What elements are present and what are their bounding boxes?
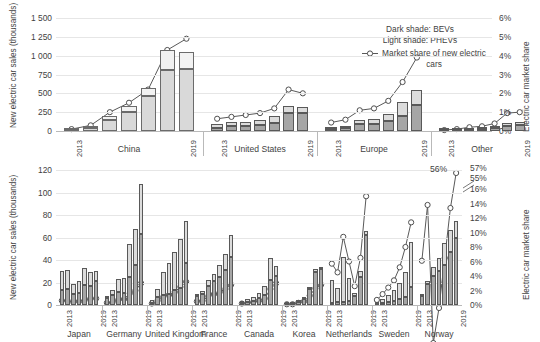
bottom-bar-column [105,170,110,305]
bar-segment-phev [122,278,127,293]
bar-segment-phev [325,127,336,129]
bar-segment-phev [141,88,156,96]
bar-segment-phev [245,299,250,301]
bar-segment-bev [502,126,512,131]
bar-segment-bev [82,285,87,305]
bar-segment-bev [105,298,110,305]
top-bar-column [141,18,156,131]
bottom-year-tick-end: 2019 [279,310,288,327]
bar-segment-phev [217,265,222,277]
bar-segment-phev [274,266,279,276]
bar-segment-bev [358,277,363,305]
bottom-bar-column [88,170,93,305]
bottom-ytick-left: 120 [10,165,52,175]
bottom-bar-column [178,170,183,305]
bottom-group-label: Norway [415,329,463,339]
bottom-group-label: Japan [55,329,103,339]
bottom-year-tick-start: 2013 [155,310,164,327]
top-bar-column [254,18,265,131]
top-bar-column [490,18,500,131]
bottom-bar-column [251,170,256,305]
bar-segment-phev [340,126,351,128]
bottom-bar-column [110,170,115,305]
bar-segment-phev [206,280,211,286]
bar-segment-phev [257,293,262,299]
bottom-bar-column [229,170,234,305]
bar-segment-phev [297,107,308,113]
bar-segment-phev [105,296,110,298]
bar-segment-bev [178,288,183,305]
bottom-bar-column [448,170,453,305]
bar-segment-phev [240,122,251,126]
bottom-bar-column [425,170,430,305]
bar-segment-phev [127,244,132,277]
bottom-ytick-left: 0 [10,300,52,310]
top-bar-column [340,18,351,131]
bottom-ytick-right: 4% [470,271,496,281]
bar-segment-bev [195,296,200,305]
bottom-year-tick-start: 2013 [110,310,119,327]
bar-segment-phev [150,300,155,302]
top-bar-column [160,18,175,131]
bar-segment-bev [200,294,205,305]
bottom-bar-column [268,170,273,305]
bottom-group-label: Canada [235,329,283,339]
bottom-group-separator [192,305,193,325]
bottom-bar-column [347,170,352,305]
bottom-bar-column [358,170,363,305]
bar-segment-bev [116,292,121,306]
bottom-year-tick-start: 2013 [425,310,434,327]
top-group-label: China [62,144,196,154]
bar-segment-bev [297,113,308,132]
bottom-ytick-right: 10% [470,228,496,238]
bar-segment-bev [454,238,459,306]
top-group-label: Other [438,144,526,154]
bottom-bar-column [437,170,442,305]
top-group-separator [431,131,432,156]
bar-segment-phev [380,299,385,302]
bottom-bar-column [257,170,262,305]
bottom-year-tick-start: 2013 [245,310,254,327]
bottom-bar-column [167,170,172,305]
bar-segment-bev [257,298,262,305]
bottom-bar-column [375,170,380,305]
bottom-bar-column [161,170,166,305]
bottom-bar-column [285,170,290,305]
bar-segment-bev [133,265,138,306]
bar-segment-phev [420,294,425,296]
bar-segment-bev [139,234,144,305]
bottom-year-tick-end: 2019 [324,310,333,327]
bar-segment-bev [380,303,385,305]
bottom-group-separator [372,305,373,325]
bottom-bar-column [307,170,312,305]
bottom-bar-column [335,170,340,305]
bar-segment-phev [477,127,487,129]
bottom-bar-column [442,170,447,305]
top-bar-column [83,18,98,131]
bottom-bar-column [94,170,99,305]
bar-segment-phev [302,297,307,299]
bottom-y2-axis-title: Electric car market share [522,209,531,300]
bottom-bar-column [330,170,335,305]
bar-segment-phev [179,52,194,69]
bar-segment-bev [83,128,98,131]
bar-segment-bev [160,70,175,131]
bar-segment-phev [448,230,453,253]
bottom-bar-column [392,170,397,305]
bar-segment-phev [403,272,408,297]
bar-segment-phev [83,126,98,128]
bar-segment-phev [442,243,447,264]
bar-segment-phev [60,271,65,290]
bar-segment-phev [352,293,357,296]
top-bar-column [297,18,308,131]
bottom-bar-column [206,170,211,305]
bottom-year-tick-start: 2013 [200,310,209,327]
figure-root: Dark shade: BEVs Light shade: PHEVs Mark… [0,0,540,342]
bottom-ytick-right: 57% [470,163,496,173]
bottom-bar-column [240,170,245,305]
bar-segment-bev [155,297,160,305]
bar-segment-phev [431,267,436,276]
bar-segment-phev [155,289,160,297]
bottom-year-tick-start: 2013 [335,310,344,327]
bar-segment-phev [226,122,237,126]
